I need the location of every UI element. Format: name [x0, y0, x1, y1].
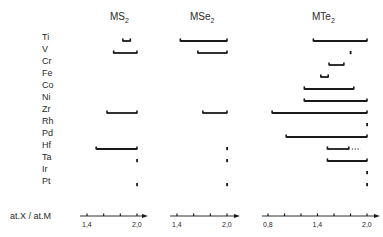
x-axis-mse2: 1,42,0 [170, 214, 240, 229]
homogeneity-range-chart: MS2MSe2MTe2 TiVCrFeCoNiZrRhPdHfTaIrPt 1,… [0, 0, 383, 237]
element-label-ir: Ir [42, 164, 48, 174]
range-bar-ms2-ta [136, 159, 138, 162]
element-label-rh: Rh [42, 116, 54, 126]
range-bar-mte2-zr [272, 110, 367, 113]
x-axis-label: at.X / at.M [10, 211, 51, 221]
tick-label: 2,0 [222, 221, 232, 228]
x-axis-ms2: 1,42,0 [80, 214, 148, 229]
axis-arrow-icon [234, 214, 240, 218]
element-label-v: V [42, 44, 48, 54]
range-bar-mse2-hf [226, 147, 228, 150]
range-bar-mse2-ti [180, 38, 227, 41]
range-bar-mte2-co [304, 86, 354, 89]
element-label-ni: Ni [42, 92, 51, 102]
panel-title-ms2: MS2 [110, 11, 129, 24]
panel-title-mte2: MTe2 [312, 11, 335, 24]
range-bar-ms2-v [114, 50, 137, 53]
panel-title-mse2: MSe2 [190, 11, 215, 24]
element-label-hf: Hf [42, 140, 51, 150]
range-bar-mte2-ti [313, 38, 367, 41]
element-label-pd: Pd [42, 128, 53, 138]
tick-label: 2,0 [132, 221, 142, 228]
panel-titles: MS2MSe2MTe2 [110, 11, 335, 24]
range-bar-ms2-pt [136, 183, 138, 186]
range-bar-ms2-zr [107, 110, 137, 113]
range-bar-mte2-ni [304, 98, 367, 101]
tick-label: 2,0 [362, 221, 372, 228]
range-bar-mte2-hf [327, 146, 360, 149]
axis-arrow-icon [142, 214, 148, 218]
range-bar-mte2-fe [321, 74, 328, 77]
element-label-fe: Fe [42, 68, 53, 78]
element-label-ti: Ti [42, 32, 49, 42]
element-label-zr: Zr [42, 104, 51, 114]
range-bar-mte2-pt [366, 183, 368, 186]
range-bar-mte2-v [350, 51, 352, 54]
tick-label: 1,4 [313, 221, 323, 228]
element-label-co: Co [42, 80, 54, 90]
range-bar-mte2-pd [286, 134, 367, 137]
element-labels: TiVCrFeCoNiZrRhPdHfTaIrPt [42, 32, 54, 186]
range-bar-ms2-ti [123, 38, 130, 41]
element-label-ta: Ta [42, 152, 52, 162]
element-label-pt: Pt [42, 176, 51, 186]
tick-label: 1,4 [82, 221, 92, 228]
range-bar-mse2-v [198, 50, 227, 53]
range-bar-mte2-rh [366, 123, 368, 126]
element-label-cr: Cr [42, 56, 52, 66]
x-axis-mte2: 0,81,42,0 [262, 214, 380, 229]
range-bar-mte2-cr [329, 62, 344, 65]
x-axes: 1,42,01,42,00,81,42,0 [80, 214, 380, 229]
range-bar-mte2-ir [366, 171, 368, 174]
axis-arrow-icon [374, 214, 380, 218]
range-bar-mse2-zr [203, 110, 227, 113]
range-bar-mte2-ta [327, 158, 367, 161]
tick-label: 0,8 [263, 221, 273, 228]
range-bar-mse2-pt [226, 183, 228, 186]
tick-label: 1,4 [172, 221, 182, 228]
range-bar-mse2-ta [226, 159, 228, 162]
range-bars [96, 38, 368, 186]
range-bar-ms2-hf [96, 146, 137, 149]
